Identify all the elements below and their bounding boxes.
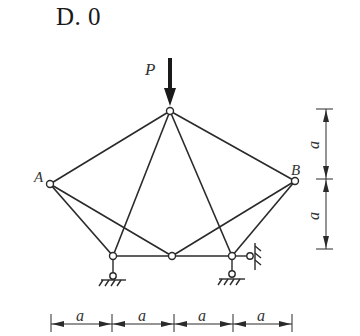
right-vertical-support: [218, 256, 245, 285]
dim-horizontal-1: a: [76, 307, 84, 324]
node-label-A: A: [33, 169, 44, 185]
member-A-bottom-middle: [50, 184, 172, 256]
truss-diagram: P: [0, 0, 360, 336]
dim-horizontal-2: a: [138, 307, 146, 324]
vertical-dimension: [316, 109, 333, 249]
joint-bottom-middle: [169, 253, 176, 260]
horizontal-dimension: [51, 314, 292, 332]
member-top-B: [170, 111, 295, 181]
truss-members: [50, 111, 295, 256]
joint-A: [47, 181, 54, 188]
joint-bottom-left: [110, 253, 117, 260]
dim-horizontal-3: a: [198, 307, 206, 324]
joint-B: [292, 178, 299, 185]
node-label-B: B: [291, 162, 300, 178]
load-arrow: P: [144, 58, 176, 106]
load-label: P: [144, 60, 155, 79]
joints: [47, 108, 299, 260]
member-top-A: [50, 111, 170, 184]
member-top-bottom-left: [113, 111, 170, 256]
member-B-bottom-middle: [172, 181, 295, 256]
joint-top: [167, 108, 174, 115]
member-top-bottom-right: [170, 111, 232, 256]
dim-vertical-upper: a: [305, 141, 322, 149]
member-B-bottom-right: [232, 181, 295, 256]
member-A-bottom-left: [50, 184, 113, 256]
dim-vertical-lower: a: [305, 212, 322, 220]
dim-horizontal-4: a: [257, 307, 265, 324]
right-horizontal-support: [232, 243, 261, 270]
left-vertical-support: [99, 256, 126, 286]
joint-bottom-right: [229, 253, 236, 260]
